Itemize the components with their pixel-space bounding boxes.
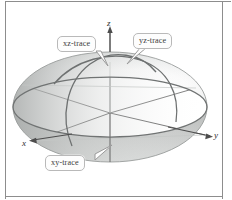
- figure-container: xz-trace yz-trace xy-trace x y z: [0, 0, 232, 200]
- callout-yz-trace-label: yz-trace: [139, 36, 166, 45]
- callout-xz-trace-label: xz-trace: [63, 39, 90, 48]
- callout-xy-trace[interactable]: xy-trace: [45, 155, 85, 171]
- callout-xy-trace-label: xy-trace: [51, 158, 79, 167]
- ellipsoid-figure: [0, 0, 232, 200]
- callout-yz-trace[interactable]: yz-trace: [133, 33, 172, 49]
- y-axis-label: y: [214, 130, 218, 140]
- y-axis-arrowhead: [205, 134, 213, 140]
- x-axis-label: x: [22, 138, 26, 148]
- callout-xz-trace[interactable]: xz-trace: [57, 36, 96, 52]
- z-axis-label: z: [107, 18, 111, 28]
